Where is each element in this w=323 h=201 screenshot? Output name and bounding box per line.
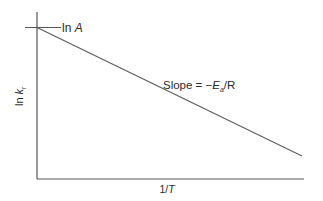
y-axis-label-sub: r bbox=[20, 86, 27, 89]
slope-label-prefix: Slope = − bbox=[163, 79, 213, 91]
slope-label: Slope = −Ea/R bbox=[163, 79, 235, 93]
y-axis-label-prefix: ln bbox=[13, 94, 25, 106]
intercept-label: ln A bbox=[62, 21, 83, 35]
x-axis-label-prefix: 1/ bbox=[159, 183, 168, 195]
arrhenius-plot: ln A Slope = −Ea/R ln kr 1/T bbox=[0, 0, 323, 201]
data-line bbox=[37, 28, 302, 157]
slope-label-suffix: /R bbox=[224, 79, 236, 91]
x-axis-label: 1/T bbox=[159, 183, 176, 195]
x-axis-label-var: T bbox=[168, 183, 176, 195]
intercept-label-prefix: ln bbox=[62, 21, 75, 35]
y-axis-label: ln kr bbox=[13, 86, 27, 106]
intercept-label-var: A bbox=[74, 21, 83, 35]
